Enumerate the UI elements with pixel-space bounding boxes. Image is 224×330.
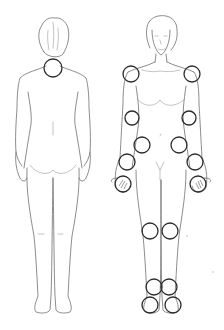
joint-marker-left-knee: [142, 223, 158, 239]
body-diagram: [0, 0, 224, 330]
back-view-figure: [16, 18, 91, 313]
joint-marker-right-shoulder: [184, 66, 200, 82]
joint-marker-right-foot: [165, 297, 181, 313]
joint-marker-left-elbow: [125, 111, 139, 125]
joint-marker-right-ankle: [161, 279, 177, 295]
body-diagram-svg: [0, 0, 224, 330]
joint-marker-right-hip: [171, 137, 187, 153]
joint-marker-right-knee: [162, 223, 178, 239]
joint-marker-left-hip: [134, 137, 150, 153]
joint-marker-right-elbow: [182, 111, 196, 125]
front-view-figure: [111, 16, 211, 313]
joint-marker-left-shoulder: [123, 66, 139, 82]
front-head: [146, 16, 177, 50]
joint-marker-left-ankle: [146, 279, 162, 295]
joint-marker-right-hand: [190, 176, 206, 192]
front-torso: [120, 62, 202, 158]
joint-marker-neck: [44, 59, 62, 77]
